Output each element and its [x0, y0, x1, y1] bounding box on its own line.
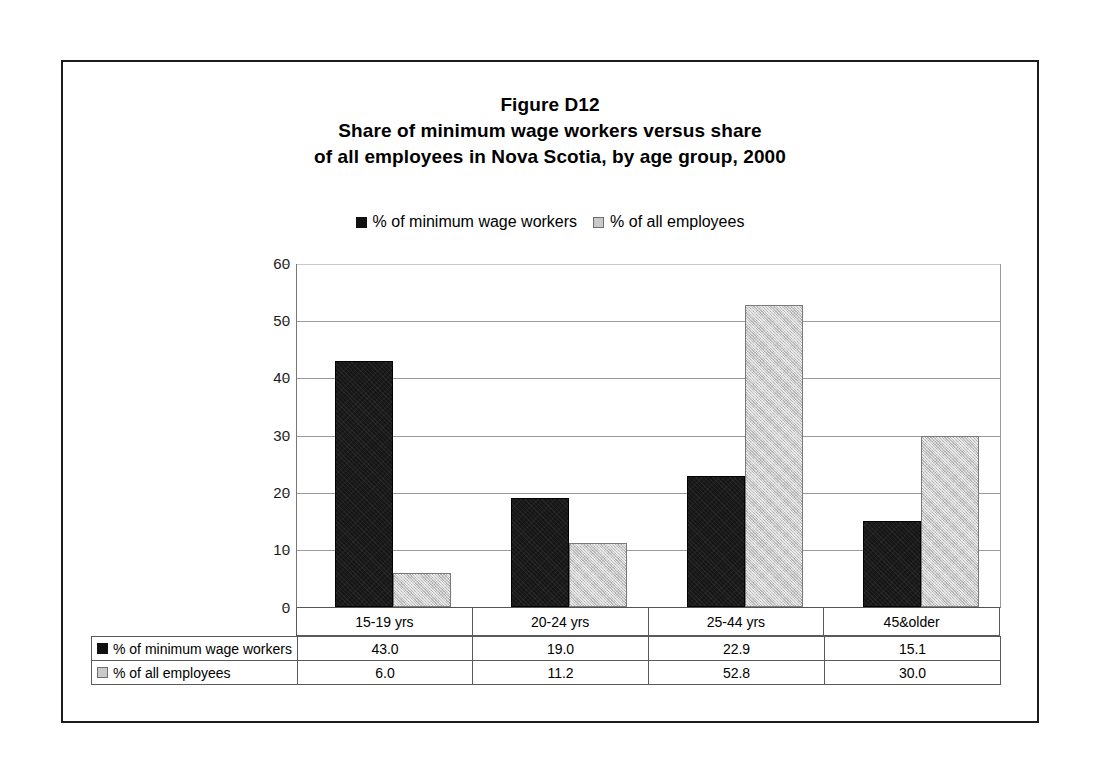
- category-label-25-44-yrs: 25-44 yrs: [648, 608, 824, 635]
- bar-25-44-yrs-all-employees[interactable]: [745, 305, 803, 607]
- table-row-all-employees: % of all employees 6.0 11.2 52.8 30.0: [92, 661, 1001, 685]
- bar-15-19-yrs-all-employees[interactable]: [393, 573, 451, 607]
- bar-45-and-older-all-employees[interactable]: [921, 436, 979, 608]
- gridline-60: [297, 264, 1000, 265]
- data-table: % of minimum wage workers 43.0 19.0 22.9…: [91, 636, 1001, 685]
- chart-title-line-2: Share of minimum wage workers versus sha…: [61, 118, 1039, 144]
- y-tick-mark-40: [284, 378, 290, 379]
- y-tick-mark-0: [284, 607, 290, 608]
- table-row-minimum-wage-workers: % of minimum wage workers 43.0 19.0 22.9…: [92, 637, 1001, 661]
- y-tick-mark-60: [284, 264, 290, 265]
- table-cell-minimum-wage-workers-45-and-older: 15.1: [825, 637, 1001, 661]
- table-cell-minimum-wage-workers-20-24-yrs: 19.0: [473, 637, 649, 661]
- y-tick-mark-50: [284, 321, 290, 322]
- table-cell-all-employees-45-and-older: 30.0: [825, 661, 1001, 685]
- y-axis: 60 50 40 30 20 10 0: [234, 264, 290, 608]
- category-label-15-19-yrs: 15-19 yrs: [296, 608, 472, 635]
- bar-20-24-yrs-all-employees[interactable]: [569, 543, 627, 607]
- bar-45-and-older-minimum-wage-workers[interactable]: [863, 521, 921, 607]
- table-cell-minimum-wage-workers-25-44-yrs: 22.9: [649, 637, 825, 661]
- chart-title-line-3: of all employees in Nova Scotia, by age …: [61, 144, 1039, 170]
- legend-label-all-employees: % of all employees: [610, 213, 744, 231]
- chart-title: Figure D12 Share of minimum wage workers…: [61, 92, 1039, 170]
- bar-20-24-yrs-minimum-wage-workers[interactable]: [511, 498, 569, 607]
- category-label-20-24-yrs: 20-24 yrs: [472, 608, 648, 635]
- gridline-40: [297, 378, 1000, 379]
- plot-area: [296, 264, 1001, 608]
- table-cell-minimum-wage-workers-15-19-yrs: 43.0: [298, 637, 473, 661]
- table-cell-all-employees-20-24-yrs: 11.2: [473, 661, 649, 685]
- gridline-30: [297, 436, 1000, 437]
- table-rowlabel-text-minimum-wage-workers: % of minimum wage workers: [113, 641, 292, 657]
- y-tick-mark-30: [284, 436, 290, 437]
- x-axis-category-strip: 15-19 yrs 20-24 yrs 25-44 yrs 45&older: [296, 608, 1000, 636]
- table-cell-all-employees-25-44-yrs: 52.8: [649, 661, 825, 685]
- figure-page: Figure D12 Share of minimum wage workers…: [0, 0, 1100, 764]
- chart-legend: % of minimum wage workers % of all emplo…: [61, 213, 1039, 231]
- gridline-50: [297, 321, 1000, 322]
- legend-item-minimum-wage-workers: % of minimum wage workers: [356, 213, 578, 231]
- category-label-45-and-older: 45&older: [823, 608, 999, 635]
- gray-square-icon: [97, 667, 108, 678]
- black-square-icon: [97, 643, 108, 654]
- legend-label-minimum-wage-workers: % of minimum wage workers: [373, 213, 578, 231]
- gridline-20: [297, 493, 1000, 494]
- chart-title-line-1: Figure D12: [61, 92, 1039, 118]
- y-tick-mark-20: [284, 493, 290, 494]
- table-rowlabel-text-all-employees: % of all employees: [113, 665, 231, 681]
- table-rowlabel-all-employees: % of all employees: [92, 661, 298, 685]
- bar-25-44-yrs-minimum-wage-workers[interactable]: [687, 476, 745, 607]
- black-square-icon: [356, 217, 367, 228]
- legend-item-all-employees: % of all employees: [593, 213, 744, 231]
- bar-15-19-yrs-minimum-wage-workers[interactable]: [335, 361, 393, 607]
- gray-square-icon: [593, 217, 604, 228]
- table-rowlabel-minimum-wage-workers: % of minimum wage workers: [92, 637, 298, 661]
- y-tick-mark-10: [284, 550, 290, 551]
- table-cell-all-employees-15-19-yrs: 6.0: [298, 661, 473, 685]
